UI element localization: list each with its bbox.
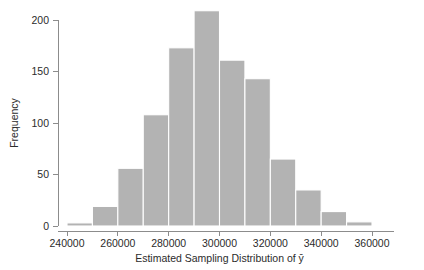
x-axis-tick-label: 240000 xyxy=(49,237,84,249)
x-axis-tick-label: 360000 xyxy=(354,237,389,249)
y-axis-tick-label: 200 xyxy=(31,14,49,26)
histogram-bar xyxy=(92,206,117,226)
histogram-bar xyxy=(118,168,143,226)
x-axis-tick-label: 300000 xyxy=(202,237,237,249)
histogram-bar xyxy=(169,48,194,226)
histogram-bar xyxy=(220,60,245,226)
x-axis-title: Estimated Sampling Distribution of ȳ xyxy=(135,252,304,264)
histogram-bar xyxy=(347,222,372,226)
histogram-bar xyxy=(270,159,295,226)
histogram-bar xyxy=(143,115,168,226)
histogram-bar xyxy=(67,223,92,226)
x-axis-tick-label: 340000 xyxy=(304,237,339,249)
histogram-figure: 0501001502002400002600002800003000003200… xyxy=(0,0,424,270)
x-axis-tick-label: 320000 xyxy=(253,237,288,249)
y-axis-title: Frequency xyxy=(8,97,20,147)
x-axis-tick-label: 280000 xyxy=(151,237,186,249)
y-axis-tick-label: 50 xyxy=(37,168,49,180)
x-axis-tick-label: 260000 xyxy=(100,237,135,249)
histogram-bar xyxy=(194,11,219,226)
y-axis-tick-label: 100 xyxy=(31,117,49,129)
y-axis-tick-label: 0 xyxy=(43,220,49,232)
y-axis-tick-label: 150 xyxy=(31,65,49,77)
histogram-bar xyxy=(296,190,321,226)
histogram-bar xyxy=(321,212,346,226)
histogram-plot-area: 0501001502002400002600002800003000003200… xyxy=(0,0,424,270)
histogram-bar xyxy=(245,79,270,226)
